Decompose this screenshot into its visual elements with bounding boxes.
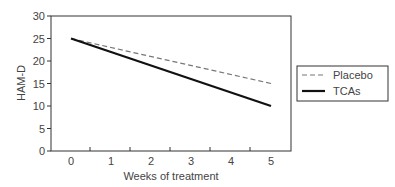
y-axis-label: HAM-D: [15, 65, 27, 101]
x-tick-label: 0: [68, 155, 74, 167]
y-tick-label: 20: [33, 55, 45, 67]
x-axis-label: Weeks of treatment: [123, 170, 218, 182]
y-tick-label: 25: [33, 33, 45, 45]
plot-area: [51, 16, 291, 151]
y-axis: [47, 16, 51, 151]
y-tick-label: 15: [33, 78, 45, 90]
y-tick-label: 10: [33, 100, 45, 112]
y-tick-label: 5: [39, 123, 45, 135]
y-tick-label: 0: [39, 145, 45, 157]
series-placebo-line: [71, 39, 271, 84]
series-tcas-line: [71, 39, 271, 107]
x-tick-label: 4: [228, 155, 234, 167]
x-tick-label: 2: [148, 155, 154, 167]
y-tick-label: 30: [33, 10, 45, 22]
legend-tcas-label: TCAs: [333, 85, 361, 97]
line-chart: 0 5 10 15 20 25 30 0 1 2 3 4 5 Weeks of …: [0, 0, 395, 187]
legend: Placebo TCAs: [297, 66, 388, 101]
x-tick-label: 3: [188, 155, 194, 167]
x-axis: [90, 147, 250, 151]
legend-placebo-label: Placebo: [333, 69, 373, 81]
x-tick-label: 1: [108, 155, 114, 167]
x-tick-label: 5: [268, 155, 274, 167]
